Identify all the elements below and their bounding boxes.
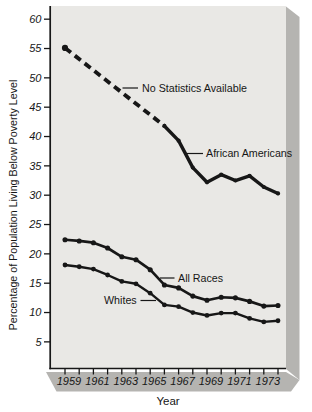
plot-panel (50, 6, 286, 369)
x-tick-label: 1969 (199, 375, 223, 387)
y-tick-label: 50 (29, 72, 42, 84)
y-tick-label: 35 (29, 160, 42, 172)
data-point (148, 267, 153, 272)
data-point (62, 237, 67, 242)
data-point (162, 282, 167, 287)
data-point (219, 295, 224, 300)
annotation-whites: Whites (104, 294, 137, 306)
data-point (233, 178, 237, 182)
data-point (219, 311, 224, 316)
data-point (219, 173, 223, 177)
data-point (233, 311, 238, 316)
data-point (247, 299, 252, 304)
data-point (105, 245, 110, 250)
y-tick-label: 60 (29, 13, 42, 25)
x-tick-label: 1963 (114, 375, 139, 387)
poverty-rate-figure: 5101520253035404550556019591961196319651… (0, 0, 312, 412)
y-axis-title: Percentage of Population Living Below Po… (7, 80, 19, 331)
data-point (176, 285, 181, 290)
data-point (177, 139, 181, 143)
data-point (261, 304, 266, 309)
x-tick-label: 1961 (85, 375, 109, 387)
x-axis-title: Year (156, 395, 179, 407)
data-point (248, 174, 252, 178)
data-point (275, 303, 280, 308)
y-tick-label: 20 (28, 248, 42, 260)
data-point (62, 45, 68, 51)
x-tick-label: 1973 (256, 375, 281, 387)
y-tick-label: 40 (29, 130, 42, 142)
data-point (119, 254, 124, 259)
y-tick-label: 55 (29, 42, 42, 54)
poverty-line-chart: 5101520253035404550556019591961196319651… (0, 0, 312, 412)
data-point (276, 191, 280, 195)
data-point (63, 263, 68, 268)
data-point (191, 166, 195, 170)
data-point (162, 303, 167, 308)
data-point (77, 238, 82, 243)
data-point (205, 313, 210, 318)
data-point (91, 267, 96, 272)
y-tick-label: 25 (28, 218, 42, 230)
y-tick-label: 10 (29, 306, 42, 318)
panel-right-shadow (286, 7, 300, 381)
data-point (176, 304, 181, 309)
x-tick-label: 1965 (142, 375, 167, 387)
y-tick-label: 45 (29, 101, 42, 113)
data-point (205, 180, 209, 184)
y-ticks: 51015202530354045505560 (28, 13, 50, 348)
data-point (247, 316, 252, 321)
y-tick-label: 5 (35, 336, 42, 348)
data-point (105, 273, 110, 278)
x-tick-label: 1959 (57, 375, 81, 387)
data-point (190, 310, 195, 315)
annotation-no-statistics-available: No Statistics Available (142, 82, 247, 94)
data-point (261, 320, 266, 325)
data-point (77, 264, 82, 269)
data-point (119, 279, 124, 284)
y-tick-label: 15 (29, 277, 42, 289)
data-point (204, 298, 209, 303)
data-point (276, 318, 281, 323)
data-point (162, 124, 166, 128)
data-point (233, 295, 238, 300)
x-tick-label: 1971 (227, 375, 251, 387)
y-tick-label: 30 (29, 189, 42, 201)
data-point (262, 185, 266, 189)
data-point (190, 294, 195, 299)
annotation-african-americans: African Americans (206, 147, 292, 159)
x-tick-label: 1967 (170, 375, 195, 387)
data-point (91, 240, 96, 245)
data-point (148, 291, 153, 296)
data-point (134, 281, 139, 286)
annotation-all-races: All Races (178, 272, 223, 284)
data-point (133, 257, 138, 262)
